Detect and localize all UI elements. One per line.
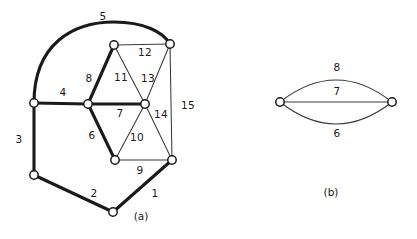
edge-15 [170,44,172,160]
edge-label-6: 6 [89,130,96,141]
edge-4 [34,103,88,104]
edge-label-15: 15 [181,100,195,111]
edge-label-7: 7 [117,108,124,119]
node-bottom [109,208,117,216]
edge-2 [34,175,113,212]
edge-label-13: 13 [141,73,155,84]
graph-canvas [0,0,417,239]
edge-label-2: 2 [91,188,98,199]
edge-label-b-7: 7 [334,86,341,97]
edge-label-4: 4 [60,87,67,98]
node-b-left [276,98,284,106]
edge-label-11: 11 [114,72,128,83]
edge-5 [34,22,170,103]
node-left-mid [30,99,38,107]
panel-a-caption: (a) [134,211,149,222]
edge-label-14: 14 [154,109,168,120]
graph-figure: 1 2 3 4 5 6 7 8 9 10 11 12 13 14 15 (a) … [0,0,417,239]
edge-label-b-6: 6 [334,128,341,139]
node-left-low [30,171,38,179]
edge-b-6 [280,102,392,124]
node-bottom-right [168,156,176,164]
node-center [84,100,92,108]
panel-b-caption: (b) [324,187,339,198]
edge-label-b-8: 8 [334,62,341,73]
edge-label-9: 9 [137,165,144,176]
node-right-mid [141,100,149,108]
node-bottom-mid [111,156,119,164]
node-top-right [166,40,174,48]
edge-label-1: 1 [152,188,159,199]
edge-label-3: 3 [16,134,23,145]
edge-label-8: 8 [86,73,93,84]
node-b-right [388,98,396,106]
edge-label-12: 12 [138,47,152,58]
edge-label-10: 10 [130,132,144,143]
node-top-left [110,41,118,49]
edge-label-5: 5 [100,11,107,22]
